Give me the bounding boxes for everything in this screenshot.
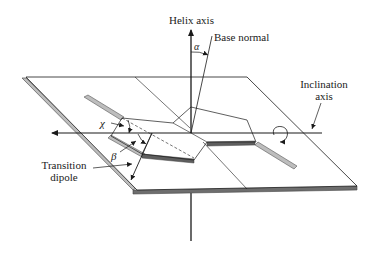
inclination-axis-label: Inclination axis (296, 78, 352, 102)
inclination-pointer (312, 103, 321, 129)
inclination-label-line2: axis (296, 90, 352, 102)
helix-axis-label: Helix axis (169, 14, 214, 26)
inclination-label-line1: Inclination (296, 78, 352, 90)
transition-dipole-label: Transition dipole (34, 159, 94, 183)
beta-label: β (111, 150, 116, 162)
base-orientation-diagram: Helix axis Base normal α Inclination axi… (0, 0, 373, 254)
alpha-label: α (194, 41, 199, 53)
transition-label-line1: Transition (34, 159, 94, 171)
diagram-canvas (0, 0, 373, 254)
chi-label: χ (100, 117, 105, 129)
transition-label-line2: dipole (34, 171, 94, 183)
base-normal-label: Base normal (214, 31, 269, 43)
